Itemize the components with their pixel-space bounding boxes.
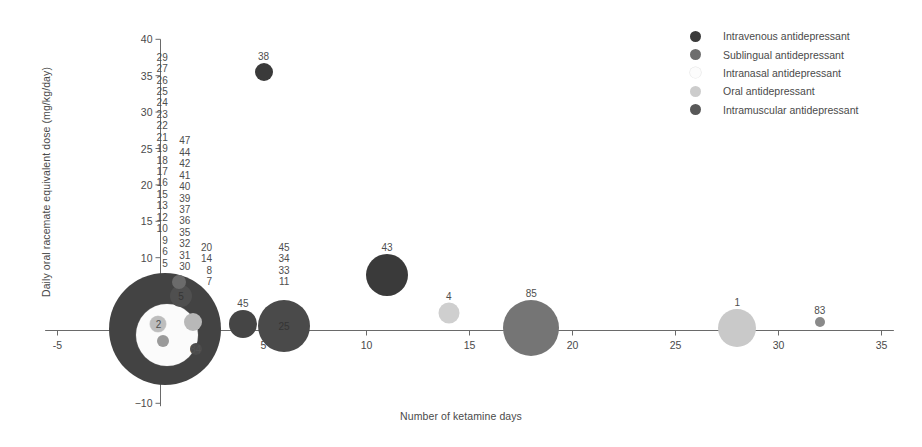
legend-item: Intravenous antidepressant <box>690 27 858 45</box>
legend-item-label: Intramuscular antidepressant <box>723 104 858 116</box>
bubble-point <box>229 310 257 338</box>
bubble-label: 5 <box>178 290 184 301</box>
bubble-label: 83 <box>814 305 825 316</box>
study-id-label: 39 <box>160 193 190 204</box>
study-id-label: 22 <box>138 120 168 131</box>
study-id-label: 14 <box>182 253 212 264</box>
legend-color-swatch <box>690 31 701 42</box>
x-tick-label: 30 <box>773 339 785 351</box>
study-id-label: 41 <box>160 170 190 181</box>
study-id-label: 24 <box>138 97 168 108</box>
x-tick-label: 20 <box>567 339 579 351</box>
legend-item-label: Intranasal antidepressant <box>723 67 841 79</box>
study-id-column: 201487 <box>182 242 212 288</box>
bubble-chart-figure: -5510152025303540353025201510−5−10384348… <box>0 0 922 447</box>
study-id-label: 37 <box>160 204 190 215</box>
legend-item: Oral antidepressant <box>690 82 858 100</box>
legend-item-label: Oral antidepressant <box>723 85 815 97</box>
bubble-point <box>157 335 169 347</box>
x-axis-title: Number of ketamine days <box>0 410 922 422</box>
bubble-label: 84 <box>190 344 201 355</box>
x-tick-label: 10 <box>361 339 373 351</box>
bubble-point <box>815 317 825 327</box>
x-tick-label: 25 <box>670 339 682 351</box>
bubble-point <box>184 313 202 331</box>
bubble-label: 45 <box>237 297 248 308</box>
bubble-label: 2 <box>156 318 162 329</box>
legend-color-swatch <box>690 104 701 115</box>
bubble-point <box>438 303 459 324</box>
chart-legend: Intravenous antidepressantSublingual ant… <box>690 27 858 119</box>
y-tick-label: 40 <box>115 33 153 45</box>
study-id-label: 45 <box>279 242 290 253</box>
legend-color-swatch <box>690 49 701 60</box>
legend-item: Sublingual antidepressant <box>690 45 858 63</box>
y-tick-label: −10 <box>115 397 153 409</box>
study-id-label: 8 <box>182 265 212 276</box>
legend-color-swatch <box>690 67 701 78</box>
study-id-label: 40 <box>160 181 190 192</box>
bubble-label: 38 <box>258 51 269 62</box>
x-tick-label: -5 <box>53 339 62 351</box>
study-id-label: 20 <box>182 242 212 253</box>
bubble-label: 43 <box>382 242 393 253</box>
study-id-label: 11 <box>279 276 290 287</box>
bubble-point <box>366 254 408 296</box>
study-id-column: 45343311 <box>279 242 290 288</box>
bubble-label: 25 <box>279 321 290 332</box>
study-id-label: 35 <box>160 227 190 238</box>
study-id-label: 7 <box>182 276 212 287</box>
bubble-point <box>255 63 273 81</box>
legend-item: Intramuscular antidepressant <box>690 101 858 119</box>
bubble-point <box>718 309 756 347</box>
study-id-label: 26 <box>138 75 168 86</box>
study-id-label: 25 <box>138 86 168 97</box>
study-id-label: 29 <box>138 52 168 63</box>
legend-item-label: Sublingual antidepressant <box>723 49 844 61</box>
x-tick-label: 35 <box>876 339 888 351</box>
y-axis-title: Daily oral racemate equivalent dose (mg/… <box>40 32 52 332</box>
legend-color-swatch <box>690 86 701 97</box>
bubble-label: 1 <box>735 297 741 308</box>
study-id-label: 44 <box>160 147 190 158</box>
study-id-label: 27 <box>138 63 168 74</box>
bubble-label: 4 <box>446 290 452 301</box>
bubble-point <box>503 300 559 356</box>
bubble-label: 85 <box>526 287 537 298</box>
legend-item: Intranasal antidepressant <box>690 64 858 82</box>
legend-item-label: Intravenous antidepressant <box>723 30 850 42</box>
study-id-label: 23 <box>138 109 168 120</box>
study-id-label: 33 <box>279 265 290 276</box>
study-id-label: 34 <box>279 253 290 264</box>
study-id-label: 36 <box>160 215 190 226</box>
x-tick-label: 15 <box>464 339 476 351</box>
study-id-label: 47 <box>160 135 190 146</box>
study-id-label: 42 <box>160 158 190 169</box>
